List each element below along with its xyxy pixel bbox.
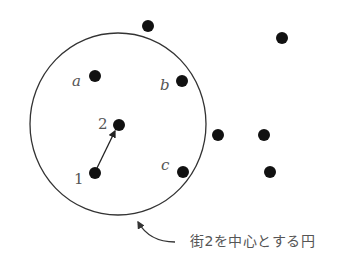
point-top-right [276, 32, 288, 44]
circle-caption: 街2を中心とする円 [190, 230, 315, 250]
caption-pointer-arrow [138, 222, 175, 242]
point-town-1 [89, 167, 101, 179]
label-town-1: 1 [74, 172, 84, 187]
diagram-canvas: a b c 2 1 街2を中心とする円 [0, 0, 355, 270]
label-town-2: 2 [98, 117, 108, 132]
point-mid-right-2 [258, 129, 270, 141]
label-c: c [161, 158, 169, 173]
points-group [89, 20, 288, 179]
point-c [177, 166, 189, 178]
point-town-2 [113, 119, 125, 131]
arrow-1-to-2 [97, 131, 115, 168]
point-top-outside [142, 20, 154, 32]
point-a [89, 70, 101, 82]
point-mid-right-1 [212, 129, 224, 141]
point-b [176, 75, 188, 87]
label-a: a [72, 74, 81, 89]
point-bottom-right [264, 166, 276, 178]
label-b: b [160, 78, 170, 93]
